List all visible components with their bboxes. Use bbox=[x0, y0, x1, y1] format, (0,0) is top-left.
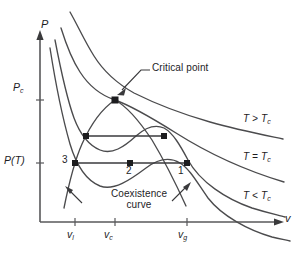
x-tick-label-vc-sub: c bbox=[109, 234, 113, 241]
isotherm-label-critical: T = Tc bbox=[243, 152, 271, 163]
y-tick-label-pt: P(T) bbox=[4, 155, 25, 166]
state-point-1-label: 1 bbox=[178, 166, 184, 177]
critical-point-marker bbox=[112, 97, 119, 104]
diagram-canvas bbox=[0, 0, 301, 260]
x-axis-arrowhead bbox=[274, 218, 284, 225]
y-tick-label-pt-main: P(T) bbox=[4, 154, 25, 166]
isotherm-label-above-critical: T > Tc bbox=[243, 114, 271, 125]
y-tick-label-pc-sub: c bbox=[20, 87, 24, 94]
isotherm-label-above-main: T > T bbox=[243, 113, 267, 124]
y-tick-label-pc: Pc bbox=[13, 82, 24, 93]
tie-line-upper-left-point bbox=[83, 133, 89, 139]
isotherm-label-at-main: T = T bbox=[243, 151, 267, 162]
x-axis-label: v bbox=[285, 213, 291, 225]
x-tick-label-vg-sub: g bbox=[183, 234, 187, 241]
pv-phase-diagram: P v Pc P(T) vl vc vg T > Tc T = Tc T < T… bbox=[0, 0, 301, 260]
x-tick-label-vg: vg bbox=[178, 229, 187, 240]
y-axis-arrowhead bbox=[36, 30, 43, 40]
state-point-3-marker bbox=[72, 160, 78, 166]
isotherm-subcritical-lower bbox=[50, 48, 290, 241]
x-tick-label-vl: vl bbox=[67, 229, 74, 240]
x-tick-label-vl-sub: l bbox=[72, 234, 74, 241]
coexistence-curve-annotation: Coexistencecurve bbox=[108, 189, 170, 211]
state-point-1-marker bbox=[184, 160, 190, 166]
state-point-2-label: 2 bbox=[126, 166, 132, 177]
isotherm-curves bbox=[50, 12, 290, 241]
isotherm-label-below-critical: T < Tc bbox=[243, 191, 271, 202]
isotherm-label-at-sub: c bbox=[267, 156, 271, 163]
y-axis-label: P bbox=[41, 19, 48, 31]
critical-point-leader-arrowhead bbox=[117, 88, 126, 96]
tie-line-upper-right-point bbox=[161, 133, 167, 139]
coexistence-right-leader-line bbox=[172, 187, 186, 201]
coexistence-annotation-line1: Coexistence bbox=[111, 188, 167, 199]
isotherm-label-below-main: T < T bbox=[243, 190, 267, 201]
critical-point-annotation: Critical point bbox=[152, 63, 208, 74]
critical-point-leader-line bbox=[122, 70, 150, 90]
isotherm-label-below-sub: c bbox=[267, 195, 271, 202]
tie-lines-group bbox=[72, 133, 190, 166]
coexistence-annotation-line2: curve bbox=[127, 199, 152, 210]
isotherm-label-above-sub: c bbox=[267, 118, 271, 125]
coexistence-left-leader-line bbox=[70, 191, 82, 203]
state-point-3-label: 3 bbox=[62, 155, 68, 166]
x-tick-label-vc: vc bbox=[104, 229, 113, 240]
coexistence-right-arrowhead bbox=[183, 182, 191, 191]
